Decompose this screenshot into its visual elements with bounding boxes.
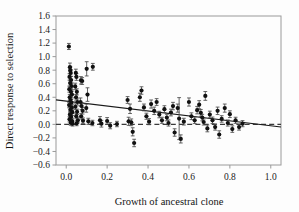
data-point — [70, 122, 74, 126]
data-point — [75, 90, 79, 94]
data-point — [79, 114, 83, 118]
y-axis-tick-marks — [53, 16, 57, 165]
data-point — [139, 88, 143, 92]
data-point — [182, 120, 186, 124]
y-tick-label: 1.2 — [38, 38, 50, 48]
data-point — [189, 114, 193, 118]
data-point — [197, 103, 201, 107]
error-bars — [67, 43, 244, 146]
data-point — [173, 130, 177, 134]
y-tick-label: 0.0 — [38, 120, 50, 130]
data-point — [90, 121, 94, 125]
x-axis-tick-marks — [66, 165, 271, 169]
data-point — [226, 121, 230, 125]
data-point — [80, 109, 84, 113]
plot-border — [56, 16, 281, 165]
data-point — [171, 104, 175, 108]
data-point — [162, 107, 166, 111]
data-point — [81, 119, 85, 123]
y-tick-label: 1.0 — [38, 52, 50, 62]
data-point — [69, 71, 73, 75]
data-point — [152, 109, 156, 113]
data-point — [75, 121, 79, 125]
data-point — [179, 137, 183, 141]
data-point — [73, 105, 77, 109]
data-points — [67, 44, 245, 145]
data-point — [125, 98, 129, 102]
data-point — [220, 117, 224, 121]
x-axis-tick-labels: 0.00.20.40.60.81.0 — [60, 172, 277, 182]
data-point — [240, 122, 244, 126]
data-point — [105, 119, 109, 123]
x-tick-label: 0.6 — [183, 172, 195, 182]
data-point — [138, 95, 142, 99]
data-point — [131, 130, 135, 134]
data-point — [165, 115, 169, 119]
data-point — [205, 126, 209, 130]
data-point — [160, 118, 164, 122]
plot-canvas: −0.6−0.4−0.20.00.20.40.60.81.01.21.41.6 … — [0, 0, 299, 212]
y-axis-title: Direct response to selection — [4, 32, 15, 149]
data-point — [80, 79, 84, 83]
data-point — [99, 122, 103, 126]
y-tick-label: −0.4 — [33, 147, 50, 157]
data-point — [223, 106, 227, 110]
y-tick-label: 0.2 — [38, 106, 50, 116]
data-point — [128, 107, 132, 111]
data-point — [142, 105, 146, 109]
data-point — [213, 125, 217, 129]
data-point — [115, 122, 119, 126]
x-tick-label: 0.0 — [60, 172, 72, 182]
data-point — [129, 120, 133, 124]
data-point — [149, 102, 153, 106]
data-point — [147, 120, 151, 124]
data-point — [210, 118, 214, 122]
data-point — [166, 121, 170, 125]
data-point — [208, 112, 212, 116]
y-tick-label: 0.4 — [38, 93, 50, 103]
x-tick-label: 1.0 — [265, 172, 277, 182]
y-tick-label: 1.4 — [38, 25, 50, 35]
data-point — [199, 111, 203, 115]
data-point — [233, 118, 237, 122]
y-tick-label: −0.6 — [33, 160, 50, 170]
data-point — [78, 100, 82, 104]
data-point — [169, 110, 173, 114]
data-point — [85, 67, 89, 71]
data-point — [215, 109, 219, 113]
y-tick-label: 0.6 — [38, 79, 50, 89]
scatter-plot-figure: −0.6−0.4−0.20.00.20.40.60.81.01.21.41.6 … — [0, 0, 299, 212]
data-point — [91, 65, 95, 69]
x-axis-title: Growth of ancestral clone — [115, 196, 224, 207]
data-point — [202, 120, 206, 124]
y-tick-label: 0.8 — [38, 66, 50, 76]
data-point — [237, 125, 241, 129]
data-point — [73, 84, 77, 88]
x-tick-label: 0.2 — [101, 172, 113, 182]
data-point — [132, 141, 136, 145]
data-point — [217, 132, 221, 136]
data-point — [84, 106, 88, 110]
x-tick-label: 0.8 — [224, 172, 236, 182]
data-point — [228, 112, 232, 116]
data-point — [155, 100, 159, 104]
data-point — [200, 115, 204, 119]
x-tick-label: 0.4 — [142, 172, 154, 182]
y-tick-label: 1.6 — [38, 11, 50, 21]
data-point — [187, 100, 191, 104]
data-point — [67, 44, 71, 48]
data-point — [75, 110, 79, 114]
data-point — [144, 114, 148, 118]
data-point — [203, 94, 207, 98]
data-point — [230, 127, 234, 131]
data-point — [85, 92, 89, 96]
data-point — [74, 71, 78, 75]
data-point — [108, 124, 112, 128]
data-point — [195, 108, 199, 112]
data-point — [193, 118, 197, 122]
y-tick-label: −0.2 — [33, 133, 50, 143]
data-point — [177, 117, 181, 121]
data-point — [74, 95, 78, 99]
data-point — [176, 106, 180, 110]
data-point — [86, 119, 90, 123]
